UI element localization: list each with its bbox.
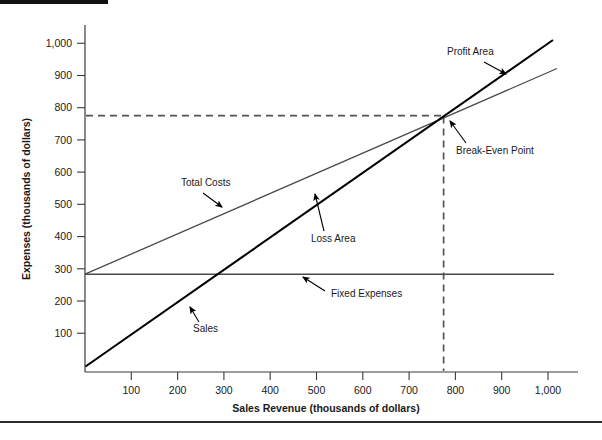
y-axis-title: Expenses (thousands of dollars): [20, 118, 32, 280]
annotation-arrow-fixed-expenses: [303, 277, 325, 291]
annotation-profit-area: Profit Area: [447, 46, 506, 74]
annotation-arrow-loss-area: [315, 194, 324, 231]
x-tick-label-500: 500: [308, 384, 326, 396]
annotation-label-break-even-point: Break-Even Point: [456, 145, 534, 156]
annotation-label-total-costs: Total Costs: [181, 177, 230, 188]
x-tick-label-400: 400: [261, 384, 279, 396]
annotation-label-loss-area: Loss Area: [311, 233, 356, 244]
top-rule-decoration: [0, 0, 108, 4]
x-tick-label-300: 300: [215, 384, 233, 396]
y-tick-label-300: 300: [54, 263, 72, 275]
chart-canvas: 1,000 900 800 700 600 500 400 300 200 10…: [0, 0, 602, 440]
x-tick-label-1000: 1,000: [535, 384, 561, 396]
y-tick-label-500: 500: [54, 198, 72, 210]
annotation-loss-area: Loss Area: [311, 194, 356, 244]
y-tick-label-700: 700: [54, 134, 72, 146]
sales-line: [86, 40, 554, 367]
y-tick-label-100: 100: [54, 327, 72, 339]
y-tick-label-1000: 1,000: [46, 37, 72, 49]
bottom-rule-decoration: [0, 421, 602, 423]
x-axis-title: Sales Revenue (thousands of dollars): [232, 402, 419, 414]
annotation-arrow-profit-area: [484, 62, 506, 74]
x-tick-label-600: 600: [354, 384, 372, 396]
y-tick-label-200: 200: [54, 295, 72, 307]
annotation-sales: Sales: [190, 307, 218, 334]
annotation-arrow-break-even-point: [450, 121, 466, 143]
x-tick-label-100: 100: [123, 384, 141, 396]
annotation-total-costs: Total Costs: [181, 177, 230, 207]
annotation-arrow-total-costs: [203, 193, 222, 207]
axes: [85, 25, 578, 372]
annotation-fixed-expenses: Fixed Expenses: [303, 277, 402, 299]
x-axis-tick-labels: 100 200 300 400 500 600 700 800 900 1,00…: [123, 384, 562, 396]
x-tick-label-200: 200: [169, 384, 187, 396]
annotation-label-sales: Sales: [193, 323, 218, 334]
y-tick-label-400: 400: [54, 230, 72, 242]
y-tick-label-600: 600: [54, 166, 72, 178]
y-tick-label-900: 900: [54, 69, 72, 81]
y-axis-ticks: [77, 43, 85, 333]
y-axis-tick-labels: 1,000 900 800 700 600 500 400 300 200 10…: [46, 37, 72, 339]
x-tick-label-900: 900: [493, 384, 511, 396]
y-tick-label-800: 800: [54, 101, 72, 113]
x-tick-label-800: 800: [447, 384, 465, 396]
annotation-label-fixed-expenses: Fixed Expenses: [331, 288, 402, 299]
annotation-label-profit-area: Profit Area: [447, 46, 494, 57]
annotation-break-even-point: Break-Even Point: [450, 121, 534, 156]
annotation-arrow-sales: [190, 307, 199, 322]
break-even-chart-figure: 1,000 900 800 700 600 500 400 300 200 10…: [0, 0, 602, 440]
x-axis-ticks: [131, 372, 548, 380]
x-tick-label-700: 700: [400, 384, 418, 396]
